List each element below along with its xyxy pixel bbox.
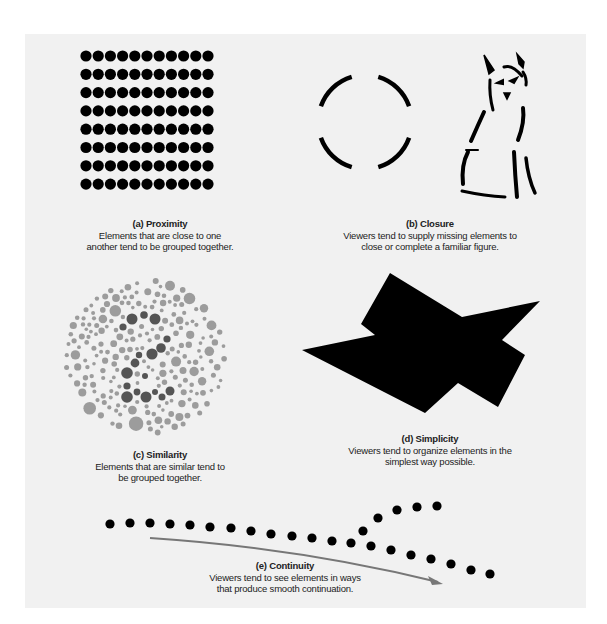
caption-title: (b) Closure (320, 218, 540, 230)
caption-proximity: (a) Proximity Elements that are close to… (60, 218, 260, 253)
caption-line: close or complete a familiar figure. (320, 241, 540, 253)
caption-simplicity: (d) Simplicity Viewers tend to organize … (320, 433, 540, 468)
caption-line: Elements that are similar tend to (60, 461, 260, 473)
caption-line: be grouped together. (60, 472, 260, 484)
caption-title: (c) Similarity (60, 449, 260, 461)
caption-line: simplest way possible. (320, 456, 540, 468)
caption-similarity: (c) Similarity Elements that are similar… (60, 449, 260, 484)
similarity-dot-plate (64, 278, 227, 435)
figure-illustrations (0, 0, 607, 624)
dog-outline-icon (462, 54, 535, 197)
proximity-dot-grid (80, 50, 213, 189)
caption-line: another tend to be grouped together. (60, 241, 260, 253)
broken-circle-icon (321, 77, 409, 167)
caption-line: Viewers tend to supply missing elements … (320, 230, 540, 242)
caption-closure: (b) Closure Viewers tend to supply missi… (320, 218, 540, 253)
caption-line: that produce smooth continuation. (175, 583, 395, 595)
caption-continuity: (e) Continuity Viewers tend to see eleme… (175, 560, 395, 595)
caption-title: (a) Proximity (60, 218, 260, 230)
caption-title: (d) Simplicity (320, 433, 540, 445)
caption-line: Viewers tend to organize elements in the (320, 445, 540, 457)
caption-line: Elements that are close to one (60, 230, 260, 242)
overlapping-shapes-icon (302, 273, 540, 413)
caption-title: (e) Continuity (175, 560, 395, 572)
caption-line: Viewers tend to see elements in ways (175, 572, 395, 584)
